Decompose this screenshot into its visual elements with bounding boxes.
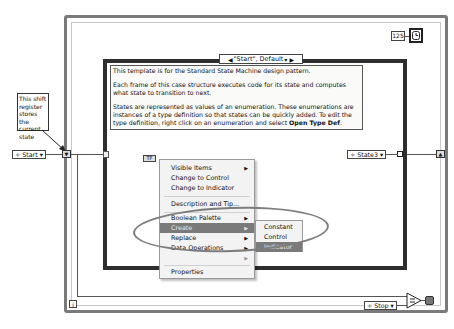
submenu-arrow-icon: ▶ — [244, 243, 248, 253]
enum-value: State3 — [357, 151, 378, 158]
case-tunnel-input[interactable] — [103, 151, 109, 158]
submenu-arrow-icon: ▶ — [244, 253, 248, 263]
stop-enum-constant[interactable]: ÷ Stop ▾ — [364, 301, 397, 310]
submenu-item-indicator[interactable]: Indicator — [256, 242, 302, 252]
enum-icon: ÷ — [367, 302, 372, 309]
enum-value: Start — [22, 151, 37, 158]
dropdown-arrow-icon[interactable]: ▾ — [391, 302, 394, 309]
menu-item-replace[interactable]: Replace▶ — [160, 233, 254, 243]
shift-register-right[interactable]: ▲ — [436, 150, 445, 158]
menu-label: Change to Control — [171, 174, 229, 182]
comment-line-2: Each frame of this case structure execut… — [113, 81, 360, 97]
create-submenu: Constant Control Indicator — [255, 220, 303, 252]
next-state-enum-constant[interactable]: ÷ State3 ▾ — [347, 150, 386, 159]
menu-label: Replace — [171, 234, 196, 242]
comment-line-1: This template is for the Standard State … — [113, 67, 360, 75]
wire — [77, 155, 78, 297]
wait-clock-icon — [412, 31, 420, 40]
enum-value: Stop — [374, 302, 388, 309]
menu-item-data-operations[interactable]: Data Operations▶ — [160, 243, 254, 253]
submenu-arrow-icon: ▶ — [244, 163, 248, 173]
menu-label: Description and Tip... — [171, 200, 239, 208]
menu-item-advanced[interactable]: Advanced▶ — [160, 253, 254, 263]
dropdown-arrow-icon[interactable]: ▾ — [40, 151, 43, 158]
menu-item-description-and-tip[interactable]: Description and Tip... — [160, 199, 254, 209]
menu-label: Boolean Palette — [171, 214, 221, 222]
menu-item-properties[interactable]: Properties — [160, 267, 254, 277]
menu-item-create[interactable]: Create▶ — [160, 223, 254, 233]
dropdown-arrow-icon[interactable]: ▾ — [380, 151, 383, 158]
menu-label: Data Operations — [171, 244, 223, 252]
enum-icon: ÷ — [350, 151, 355, 158]
case-selector[interactable]: ◀ "Start", Default ▾ ▶ — [219, 54, 303, 64]
submenu-item-control[interactable]: Control — [256, 232, 302, 242]
boolean-constant[interactable]: TF — [143, 155, 156, 162]
comment-text: . — [340, 119, 342, 126]
submenu-arrow-icon: ▶ — [244, 233, 248, 243]
loop-condition-terminal[interactable] — [425, 296, 434, 305]
increment-arrow-icon[interactable]: ▶ — [288, 56, 295, 63]
menu-item-visible-items[interactable]: Visible Items▶ — [160, 163, 254, 173]
menu-item-change-to-control[interactable]: Change to Control — [160, 173, 254, 183]
menu-label: Constant — [264, 223, 293, 231]
open-type-def-text: Open Type Def — [289, 119, 340, 126]
menu-item-change-to-indicator[interactable]: Change to Indicator — [160, 183, 254, 193]
submenu-arrow-icon: ▶ — [244, 213, 248, 223]
wait-ms-constant[interactable]: 125 — [391, 31, 405, 41]
menu-label: Control — [264, 233, 287, 241]
wire — [77, 296, 377, 297]
wait-ms-function[interactable] — [409, 28, 423, 43]
wire — [45, 154, 62, 155]
equal-comparison-icon[interactable] — [406, 292, 422, 309]
decrement-arrow-icon[interactable]: ◀ — [227, 56, 234, 63]
shift-register-left[interactable]: ▼ — [62, 150, 71, 158]
start-enum-constant[interactable]: ÷ Start ▾ — [12, 150, 46, 159]
menu-separator — [164, 196, 250, 197]
comment-line-3: States are represented as values of an e… — [113, 103, 360, 127]
submenu-item-constant[interactable]: Constant — [256, 222, 302, 232]
menu-item-boolean-palette[interactable]: Boolean Palette▶ — [160, 213, 254, 223]
menu-label: Visible Items — [171, 164, 212, 172]
wire — [407, 154, 437, 155]
menu-label: Change to Indicator — [171, 184, 234, 192]
context-menu: Visible Items▶ Change to Control Change … — [159, 159, 255, 279]
menu-label: Create — [171, 224, 192, 232]
submenu-arrow-icon: ▶ — [244, 223, 248, 233]
menu-label: Indicator — [264, 243, 292, 251]
menu-separator — [164, 265, 250, 266]
shift-register-note: This shift register stores the current s… — [17, 93, 49, 131]
wire — [377, 296, 408, 297]
case-selector-label: "Start", Default — [234, 55, 284, 63]
enum-icon: ÷ — [15, 151, 20, 158]
menu-label: Properties — [171, 268, 203, 276]
comment-block: This template is for the Standard State … — [110, 65, 363, 130]
iteration-terminal: i — [69, 300, 77, 308]
